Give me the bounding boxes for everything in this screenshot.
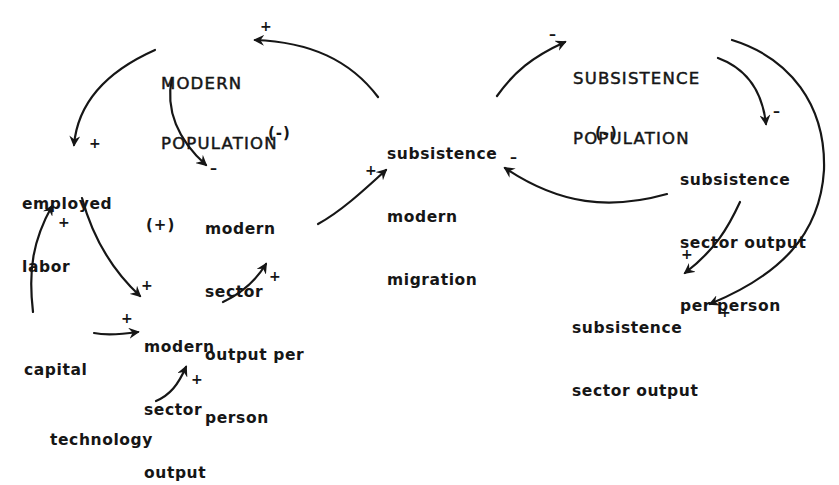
sign-plus-output-to-per-person: + (269, 269, 281, 283)
link-subsistence-population-to-output-per-person (718, 58, 766, 124)
sign-plus-capital-to-labor: + (58, 215, 70, 229)
sign-plus-technology: + (191, 372, 203, 386)
node-subsistence-sector-output: subsistence sector output (572, 276, 698, 444)
sign-minus-modern-output-per-person: – (210, 161, 217, 175)
link-modern-population-to-employed-labor (74, 50, 155, 145)
sign-plus-subsistence-sector-output-left: + (681, 247, 693, 261)
node-modern-sector-output-per-person: modern sector output per person (205, 177, 304, 471)
node-modern-population: MODERN POPULATION (161, 34, 278, 194)
sign-minus-subsistence-output-per-person: – (773, 104, 780, 118)
node-subsistence-sector-output-per-person: subsistence sector output per person (680, 128, 806, 359)
node-employed-labor: employed labor (22, 152, 112, 320)
link-modern-output-per-person-to-migration (318, 170, 386, 224)
loop-polarity-left-positive: (+) (146, 216, 175, 234)
sign-plus-subsistence-sector-output-right: + (719, 305, 731, 319)
sign-plus-migration-left: + (365, 163, 377, 177)
link-capital-to-modern-output (94, 332, 138, 335)
sign-plus-modern-population: + (260, 19, 272, 33)
sign-plus-capital-to-output: + (121, 311, 133, 325)
loop-polarity-right-negative: (-) (595, 124, 618, 142)
sign-minus-subsistence-population: – (549, 27, 556, 41)
sign-plus-labor-to-output: + (141, 278, 153, 292)
loop-polarity-left-negative: (-) (268, 124, 291, 142)
node-subsistence-modern-migration: subsistence modern migration (387, 102, 497, 333)
node-modern-sector-output: modern sector output (144, 295, 215, 485)
sign-minus-migration-right: – (510, 150, 517, 164)
link-migration-to-subsistence-population (497, 42, 565, 96)
node-technology: technology (50, 388, 153, 485)
sign-plus-employed-labor: + (89, 136, 101, 150)
